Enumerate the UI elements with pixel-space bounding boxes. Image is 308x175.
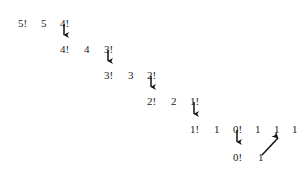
trace-token: 4! — [60, 18, 69, 29]
trace-token: 1 — [292, 124, 298, 135]
trace-token: 1 — [255, 124, 261, 135]
trace-token: 1 — [214, 124, 220, 135]
trace-token: 3! — [104, 70, 113, 81]
trace-token: 0! — [233, 124, 242, 135]
trace-token: 2! — [147, 96, 156, 107]
trace-token: 5 — [41, 18, 47, 29]
trace-token: 4! — [60, 44, 69, 55]
trace-token: 3! — [104, 44, 113, 55]
trace-token: 5! — [18, 18, 27, 29]
trace-token: 2! — [147, 70, 156, 81]
trace-token: 1 — [258, 152, 264, 163]
up-right-arrow-icon — [262, 138, 278, 155]
diagonal-arrows-group — [262, 138, 278, 155]
trace-token: 4 — [84, 44, 90, 55]
trace-token: 1 — [274, 124, 280, 135]
trace-token: 3 — [128, 70, 134, 81]
recursion-trace-figure: 5!54!4!43!3!32!2!21!1!10!1110!1 — [0, 0, 308, 175]
trace-token: 1! — [190, 96, 199, 107]
trace-token: 2 — [171, 96, 177, 107]
trace-token: 1! — [190, 124, 199, 135]
down-arrows-group — [64, 24, 237, 142]
trace-token: 0! — [233, 152, 242, 163]
